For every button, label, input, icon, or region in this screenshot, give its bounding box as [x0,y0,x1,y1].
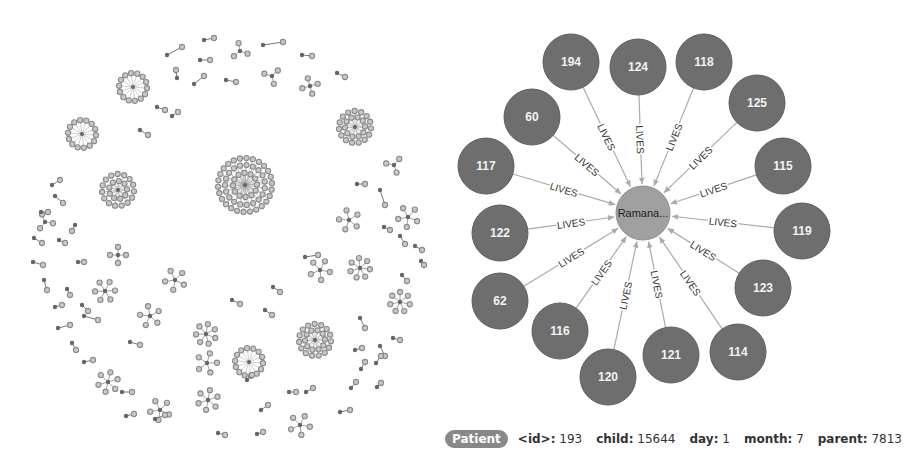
node-pair[interactable] [50,177,63,187]
node-cluster[interactable] [100,171,137,208]
node-star[interactable] [388,289,413,313]
node-pair[interactable] [138,128,151,138]
node-60[interactable]: 60 [504,89,560,145]
node-pair[interactable] [355,181,368,186]
node-pair[interactable] [42,278,50,293]
node-label-badge[interactable]: Patient [445,430,508,448]
relationship-lives[interactable]: LIVES [648,241,666,327]
node-pair[interactable] [303,252,321,259]
node-124[interactable]: 124 [610,39,666,95]
node-star[interactable] [163,268,187,292]
node-star[interactable] [137,304,161,328]
node-pair[interactable] [170,109,181,118]
node-star[interactable] [336,208,360,232]
node-star[interactable] [288,414,312,438]
node-pair[interactable] [353,345,365,352]
node-120[interactable]: 120 [580,349,636,405]
node-pair[interactable] [69,223,77,234]
node-pair[interactable] [224,78,239,85]
node-pair[interactable] [155,105,168,113]
node-pair[interactable] [335,71,348,80]
node-117[interactable]: 117 [458,138,514,194]
node-cluster[interactable] [232,346,265,379]
node-star[interactable] [384,156,402,175]
node-pair[interactable] [300,53,315,59]
node-pair[interactable] [124,411,137,418]
relationship-lives[interactable]: LIVES [672,214,774,229]
relationship-lives[interactable]: LIVES [576,237,626,308]
node-pair[interactable] [419,259,427,268]
graph-detail-canvas[interactable]: LIVESLIVESLIVESLIVESLIVESLIVESLIVESLIVES… [440,0,872,425]
relationship-lives[interactable]: LIVES [614,241,637,349]
center-node[interactable]: Ramana... [616,186,670,240]
node-pair[interactable] [56,322,73,330]
node-star[interactable] [148,399,172,423]
node-star[interactable] [196,351,219,375]
node-pair[interactable] [192,73,207,86]
relationship-lives[interactable]: LIVES [654,88,694,186]
node-pair[interactable] [82,314,101,323]
node-star[interactable] [231,41,250,59]
node-123[interactable]: 123 [735,260,791,316]
node-star[interactable] [396,206,420,230]
node-194[interactable]: 194 [543,34,599,90]
node-star[interactable] [308,259,332,283]
node-pair[interactable] [165,44,185,57]
node-122[interactable]: 122 [472,205,528,261]
graph-overview-canvas[interactable] [0,0,450,474]
node-pair[interactable] [259,402,271,412]
node-pair[interactable] [120,389,135,394]
node-pair[interactable] [304,385,316,394]
node-pair[interactable] [31,260,46,268]
node-pair[interactable] [398,234,408,247]
node-pair[interactable] [271,285,283,295]
node-pair[interactable] [391,336,403,343]
relationship-lives[interactable]: LIVES [528,215,615,231]
node-pair[interactable] [413,244,425,253]
node-114[interactable]: 114 [710,324,766,380]
node-star[interactable] [348,255,373,280]
node-pair[interactable] [198,57,213,62]
node-pair[interactable] [80,303,91,314]
node-pair[interactable] [375,380,384,389]
relationship-lives[interactable]: LIVES [670,175,756,204]
node-cluster[interactable] [337,108,374,145]
node-pair[interactable] [349,379,359,390]
node-pair[interactable] [400,273,410,284]
node-118[interactable]: 118 [676,34,732,90]
relationship-lives[interactable]: LIVES [513,174,615,205]
node-star[interactable] [262,68,281,86]
node-pair[interactable] [173,67,179,80]
node-star[interactable] [37,212,55,231]
node-star[interactable] [193,322,217,347]
node-119[interactable]: 119 [774,203,830,259]
relationship-lives[interactable]: LIVES [668,228,740,273]
node-pair[interactable] [359,359,368,371]
node-pair[interactable] [57,238,68,246]
node-121[interactable]: 121 [643,327,699,383]
node-pair[interactable] [53,194,66,206]
node-star[interactable] [107,244,128,265]
node-star[interactable] [96,370,120,395]
node-pair[interactable] [76,259,87,264]
node-cluster[interactable] [65,118,98,151]
node-125[interactable]: 125 [729,75,785,131]
node-pair[interactable] [261,39,286,47]
node-cluster[interactable] [215,155,274,214]
node-star[interactable] [92,280,117,303]
node-pair[interactable] [128,340,143,348]
node-pair[interactable] [287,389,299,394]
node-pair[interactable] [216,431,228,438]
node-pair[interactable] [255,429,266,436]
node-cluster[interactable] [297,321,334,358]
node-pair[interactable] [338,407,353,414]
node-pair[interactable] [53,302,65,309]
node-pair[interactable] [378,188,388,208]
node-pair[interactable] [65,287,73,298]
node-pair[interactable] [32,236,45,246]
node-pair[interactable] [202,35,217,42]
node-116[interactable]: 116 [532,303,588,359]
node-star[interactable] [300,76,321,97]
node-pair[interactable] [382,225,393,233]
node-pair[interactable] [82,357,96,364]
